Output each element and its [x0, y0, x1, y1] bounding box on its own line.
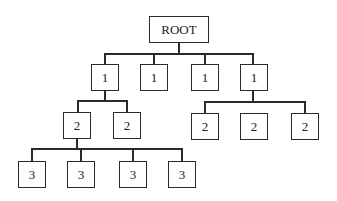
node-level2-left-2: 2 [113, 112, 141, 139]
connector-l2r-1 [204, 101, 206, 113]
connector-l3-1 [31, 148, 33, 161]
node-root: ROOT [149, 16, 209, 43]
node-level3-3: 3 [119, 161, 147, 188]
connector-level2-left-bar [77, 100, 127, 102]
connector-l3-2 [80, 148, 82, 161]
node-level3-1: 3 [18, 161, 46, 188]
connector-l1-3 [204, 53, 206, 64]
connector-l2l-2 [126, 100, 128, 112]
connector-l3-4 [181, 148, 183, 161]
connector-level2-right-bar [204, 101, 305, 103]
connector-l3-3 [132, 148, 134, 161]
connector-l1-2 [153, 53, 155, 64]
node-level2-right-1: 2 [191, 113, 219, 140]
connector-level3-bar [31, 148, 183, 150]
connector-l1-4 [252, 53, 254, 64]
node-level3-4: 3 [168, 161, 196, 188]
connector-l2l-1 [77, 100, 79, 112]
connector-level1-bar [104, 53, 253, 55]
node-level2-left-1: 2 [63, 112, 91, 139]
node-level2-right-2: 2 [240, 113, 268, 140]
node-level1-2: 1 [140, 64, 168, 91]
connector-l1-1 [104, 53, 106, 64]
connector-l2r-3 [304, 101, 306, 113]
node-level1-4: 1 [240, 64, 268, 91]
node-level2-right-3: 2 [291, 113, 319, 140]
node-level1-3: 1 [191, 64, 219, 91]
node-level3-2: 3 [67, 161, 95, 188]
node-level1-1: 1 [91, 64, 119, 91]
